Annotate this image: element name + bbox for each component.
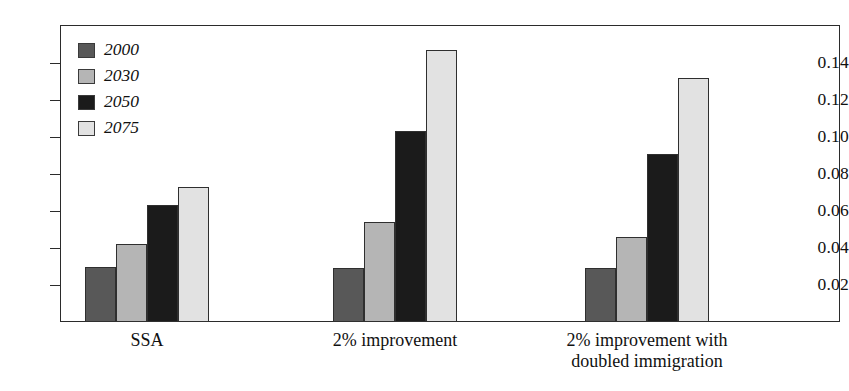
category-label-1: SSA (17, 330, 277, 351)
bar-2050-group-2 (395, 131, 426, 322)
legend-swatch-icon (78, 95, 95, 110)
chart-legend: 2000203020502075 (78, 37, 139, 141)
bar-2075-group-1 (178, 187, 209, 322)
legend-item-2075: 2075 (78, 115, 139, 141)
legend-label: 2000 (104, 41, 139, 59)
bar-2030-group-2 (364, 222, 395, 322)
bar-2050-group-3 (647, 154, 678, 322)
legend-swatch-icon (78, 43, 95, 58)
category-label-3: 2% improvement with doubled immigration (517, 330, 777, 372)
legend-swatch-icon (78, 121, 95, 136)
bar-2050-group-1 (147, 205, 178, 322)
legend-item-2000: 2000 (78, 37, 139, 63)
bar-2030-group-3 (616, 237, 647, 322)
legend-swatch-icon (78, 69, 95, 84)
bar-chart: 0.020.040.060.080.100.120.14 20002030205… (0, 0, 849, 391)
legend-label: 2050 (104, 93, 139, 111)
bar-2075-group-2 (426, 50, 457, 322)
bar-2000-group-1 (85, 267, 116, 323)
bar-2000-group-2 (333, 268, 364, 322)
bar-2000-group-3 (585, 268, 616, 322)
legend-label: 2030 (104, 67, 139, 85)
bar-2030-group-1 (116, 244, 147, 322)
legend-item-2050: 2050 (78, 89, 139, 115)
category-label-2: 2% improvement (265, 330, 525, 351)
bar-2075-group-3 (678, 78, 709, 322)
legend-label: 2075 (104, 119, 139, 137)
legend-item-2030: 2030 (78, 63, 139, 89)
